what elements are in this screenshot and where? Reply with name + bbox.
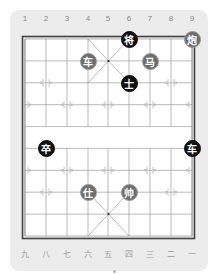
file-label: 八 — [39, 248, 53, 259]
piece-red-horse[interactable]: 马 — [142, 53, 159, 70]
page-indicator-dot — [113, 270, 116, 273]
piece-red-advisor[interactable]: 仕 — [80, 184, 97, 201]
piece-red-general[interactable]: 帅 — [121, 184, 138, 201]
file-label: 四 — [122, 248, 136, 259]
piece-black-chariot[interactable]: 车 — [184, 140, 201, 157]
file-label: 三 — [143, 248, 157, 259]
file-label: 六 — [81, 248, 95, 259]
piece-black-advisor[interactable]: 士 — [121, 75, 138, 92]
file-label: 二 — [164, 248, 178, 259]
piece-black-general[interactable]: 将 — [121, 31, 138, 48]
piece-black-soldier[interactable]: 卒 — [38, 140, 55, 157]
piece-red-cannon[interactable]: 炮 — [184, 31, 201, 48]
file-label: 九 — [18, 248, 32, 259]
file-label: 五 — [101, 248, 115, 259]
piece-red-chariot[interactable]: 车 — [80, 53, 97, 70]
file-label: 七 — [60, 248, 74, 259]
file-label: 一 — [185, 248, 199, 259]
